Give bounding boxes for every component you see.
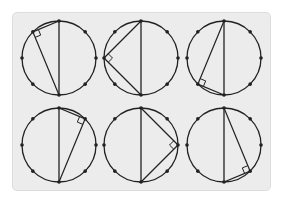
triangle-leg	[198, 21, 224, 84]
triangle-leg	[33, 32, 59, 95]
circle-point	[83, 169, 87, 173]
circle-point	[20, 143, 24, 147]
circle-point	[57, 93, 61, 97]
circle-point	[248, 82, 252, 86]
circle-point	[139, 106, 143, 110]
circle-point	[259, 143, 263, 147]
circle-point	[165, 82, 169, 86]
circle-point	[83, 82, 87, 86]
circle-point	[113, 169, 117, 173]
circle-point	[20, 56, 24, 60]
circle-3	[185, 19, 263, 97]
right-angle-marker	[170, 141, 174, 149]
circle-point	[165, 30, 169, 34]
circle-point	[248, 117, 252, 121]
circle-point	[113, 117, 117, 121]
circle-point	[83, 117, 87, 121]
circle-point	[222, 19, 226, 23]
circle-point	[176, 56, 180, 60]
circle-point	[102, 143, 106, 147]
circle-point	[259, 56, 263, 60]
circle-point	[139, 19, 143, 23]
circle-point	[185, 56, 189, 60]
circle-point	[176, 143, 180, 147]
circle-point	[102, 56, 106, 60]
circle-4	[20, 106, 98, 184]
circle-point	[57, 19, 61, 23]
circle-point	[113, 82, 117, 86]
circle-point	[94, 56, 98, 60]
circle-1	[20, 19, 98, 97]
thales-circles-diagram	[0, 0, 281, 201]
circle-5	[102, 106, 180, 184]
triangle-leg	[224, 171, 250, 182]
circle-point	[222, 106, 226, 110]
circle-point	[196, 117, 200, 121]
circle-point	[31, 117, 35, 121]
circle-point	[57, 106, 61, 110]
circle-point	[185, 143, 189, 147]
circle-point	[94, 143, 98, 147]
triangle-leg	[59, 108, 85, 119]
circle-point	[248, 169, 252, 173]
circle-point	[196, 30, 200, 34]
circle-2	[102, 19, 180, 97]
circle-point	[248, 30, 252, 34]
triangle-leg	[198, 84, 224, 95]
triangle-leg	[59, 119, 85, 182]
circle-point	[113, 30, 117, 34]
circle-6	[185, 106, 263, 184]
circle-point	[139, 93, 143, 97]
right-angle-marker	[108, 54, 112, 62]
triangle-leg	[33, 21, 59, 32]
circle-point	[196, 82, 200, 86]
circle-point	[165, 117, 169, 121]
circle-point	[31, 30, 35, 34]
circle-point	[222, 93, 226, 97]
triangle-leg	[224, 108, 250, 171]
circle-point	[196, 169, 200, 173]
circle-point	[31, 169, 35, 173]
circle-point	[83, 30, 87, 34]
circle-point	[139, 180, 143, 184]
circle-point	[57, 180, 61, 184]
circle-point	[222, 180, 226, 184]
circle-point	[165, 169, 169, 173]
circle-point	[31, 82, 35, 86]
